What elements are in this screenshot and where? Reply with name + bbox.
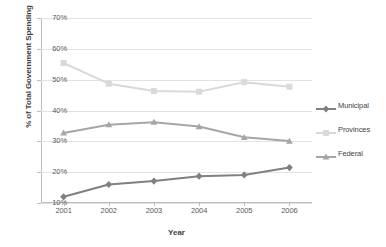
legend-label: Federal <box>338 149 363 158</box>
data-point <box>241 79 247 85</box>
data-point <box>151 88 157 94</box>
series-line <box>64 63 290 92</box>
data-point <box>105 181 112 188</box>
legend-swatch-icon <box>316 100 336 110</box>
series-federal <box>60 119 293 144</box>
series-line <box>64 122 290 141</box>
data-point <box>241 171 248 178</box>
legend-item-federal[interactable]: Federal <box>316 141 386 165</box>
legend-label: Municipal <box>338 101 369 110</box>
legend-item-municipal[interactable]: Municipal <box>316 93 386 117</box>
data-point <box>286 84 292 90</box>
legend-swatch-icon <box>316 148 336 158</box>
data-point <box>196 173 203 180</box>
data-point <box>61 60 67 66</box>
legend-item-provinces[interactable]: Provinces <box>316 117 386 141</box>
data-point <box>106 81 112 87</box>
line-chart: 10%20%30%40%50%60%70% 200120022003200420… <box>0 0 386 247</box>
legend-label: Provinces <box>338 125 370 134</box>
series-municipal <box>60 164 293 200</box>
data-point <box>196 89 202 95</box>
legend-swatch-icon <box>316 124 336 134</box>
legend: MunicipalProvincesFederal <box>316 93 386 165</box>
series-line <box>64 168 290 197</box>
data-point <box>286 164 293 171</box>
data-point <box>151 178 158 185</box>
data-point <box>60 193 67 200</box>
series-provinces <box>61 60 293 95</box>
